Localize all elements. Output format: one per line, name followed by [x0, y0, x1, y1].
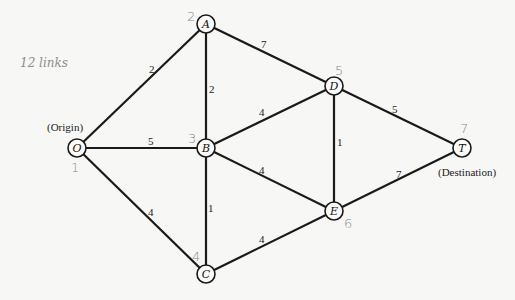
- weight-O-B: 5: [148, 135, 154, 147]
- node-number-T: 7: [460, 121, 468, 136]
- origin-caption: (Origin): [47, 121, 83, 134]
- node-number-O: 1: [71, 160, 79, 175]
- node-E: E: [325, 202, 343, 220]
- node-O: O: [68, 139, 86, 157]
- node-number-B: 3: [188, 131, 196, 146]
- weight-O-A: 2: [149, 63, 155, 75]
- destination-caption: (Destination): [438, 166, 496, 179]
- weight-B-E: 4: [259, 164, 265, 176]
- weight-E-T: 7: [396, 168, 402, 180]
- node-label-C: C: [202, 268, 211, 281]
- node-label-B: B: [201, 142, 210, 155]
- node-label-A: A: [201, 18, 210, 31]
- node-T: T: [453, 139, 471, 157]
- node-label-D: D: [329, 80, 339, 93]
- weight-B-C: 1: [208, 202, 214, 214]
- weight-C-E: 4: [259, 233, 265, 245]
- edge-C-E: [206, 211, 334, 274]
- node-number-D: 5: [335, 63, 343, 78]
- edges: [77, 24, 462, 274]
- weight-A-D: 7: [261, 38, 267, 50]
- handwritten-note: 12 links: [20, 56, 68, 70]
- node-C: C: [197, 265, 215, 283]
- weight-D-E: 1: [337, 136, 343, 148]
- node-label-O: O: [72, 142, 81, 155]
- node-number-A: 2: [187, 9, 195, 24]
- node-A: A: [197, 15, 215, 33]
- edge-O-C: [77, 148, 206, 274]
- node-number-E: 6: [344, 216, 352, 231]
- weight-A-B: 2: [209, 83, 215, 95]
- weight-B-D: 4: [259, 106, 265, 118]
- node-B: B: [197, 139, 215, 157]
- edge-A-D: [206, 24, 334, 86]
- node-number-C: 4: [192, 249, 200, 264]
- node-numbers: 1 2 3 4 5 6 7: [71, 9, 468, 264]
- edge-B-D: [206, 86, 334, 148]
- node-label-E: E: [329, 205, 338, 218]
- edge-D-T: [334, 86, 462, 148]
- edge-weights: 2 5 4 2 7 1 4 4 4 1 5 7: [148, 38, 402, 245]
- weight-O-C: 4: [148, 206, 154, 218]
- edge-B-E: [206, 148, 334, 211]
- node-D: D: [325, 77, 343, 95]
- edge-O-A: [77, 24, 206, 148]
- weight-D-T: 5: [392, 103, 398, 115]
- network-diagram: 12 links 2 5 4 2 7 1 4 4 4 1 5 7 O A: [0, 0, 515, 300]
